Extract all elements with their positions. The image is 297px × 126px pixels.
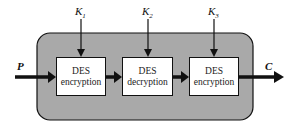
ciphertext-label: C — [265, 60, 272, 72]
key2-label: K2 — [142, 5, 153, 20]
block3-line2: encryption — [194, 77, 235, 88]
block2-line2: decryption — [127, 77, 168, 88]
des-encryption-block-1: DES encryption — [56, 57, 106, 96]
block1-line1: DES — [72, 66, 90, 77]
des-decryption-block-2: DES decryption — [122, 57, 173, 96]
key3-label: K3 — [208, 5, 219, 20]
plaintext-label: P — [17, 60, 24, 72]
block2-line1: DES — [139, 66, 157, 77]
block1-line2: encryption — [61, 77, 102, 88]
des-encryption-block-3: DES encryption — [189, 57, 239, 96]
key1-label: K1 — [75, 5, 86, 20]
block3-line1: DES — [205, 66, 223, 77]
